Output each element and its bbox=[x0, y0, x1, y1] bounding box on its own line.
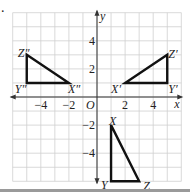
y-tick-label: −4 bbox=[82, 146, 95, 160]
x-tick-label: −2 bbox=[63, 98, 76, 112]
vertex-label: Y″ bbox=[15, 82, 28, 96]
vertex-label: X bbox=[108, 114, 117, 128]
vertex-label: X″ bbox=[67, 82, 81, 96]
x-tick-label: −4 bbox=[34, 98, 47, 112]
vertex-label: Z′ bbox=[168, 47, 178, 61]
y-tick-label: −2 bbox=[82, 118, 95, 132]
x-tick-label: 4 bbox=[150, 98, 156, 112]
y-tick-label: 2 bbox=[89, 62, 95, 76]
coordinate-plane-figure: . xyO−4−22442−2−4XYZX′Y′Z′X″Y″Z″ bbox=[0, 0, 190, 193]
x-tick-label: 2 bbox=[122, 98, 128, 112]
y-axis-label: y bbox=[99, 9, 106, 23]
vertex-label: Z″ bbox=[18, 46, 31, 60]
y-tick-label: 4 bbox=[89, 34, 95, 48]
separator-line bbox=[0, 189, 190, 192]
coordinate-grid: xyO−4−22442−2−4XYZX′Y′Z′X″Y″Z″ bbox=[0, 0, 190, 193]
origin-label: O bbox=[86, 98, 95, 112]
vertex-label: Y′ bbox=[168, 82, 178, 96]
x-axis-label: x bbox=[173, 97, 180, 111]
problem-marker: . bbox=[1, 1, 5, 15]
vertex-label: X′ bbox=[110, 82, 121, 96]
